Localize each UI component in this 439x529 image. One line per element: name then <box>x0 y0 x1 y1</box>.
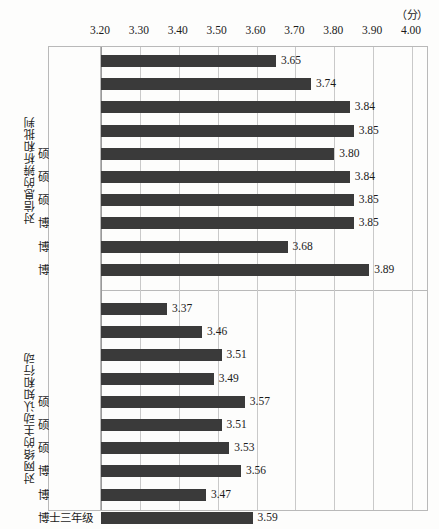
bar-row: 硕士三年级3.85 <box>49 194 427 206</box>
bar-value-label: 3.89 <box>369 263 394 276</box>
bar-row: 硕士三年级3.53 <box>49 442 427 454</box>
bar-value-label: 3.47 <box>206 488 231 501</box>
bar-value-label: 3.37 <box>167 302 192 315</box>
bar-value-label: 3.59 <box>253 511 278 524</box>
bar-value-label: 3.65 <box>276 54 301 67</box>
bar-value-label: 3.68 <box>288 240 313 253</box>
bar-value-label: 3.46 <box>202 325 227 338</box>
bar <box>101 217 354 229</box>
bar-value-label: 3.51 <box>222 418 247 431</box>
bar-row: 大三3.51 <box>49 349 427 361</box>
bar-row: 大四3.49 <box>49 373 427 385</box>
axis-unit-label: （分） <box>392 6 432 22</box>
bar <box>101 349 222 361</box>
bar <box>101 148 334 160</box>
bar-row: 博士三年级3.89 <box>49 264 427 276</box>
bar-row: 硕士一年级3.57 <box>49 396 427 408</box>
bar-value-label: 3.84 <box>350 170 375 183</box>
x-tick-label: 4.00 <box>389 24 433 36</box>
gridline <box>101 47 102 510</box>
bar <box>101 326 202 338</box>
bar <box>101 419 222 431</box>
bar-row: 博士二年级3.47 <box>49 489 427 501</box>
bar <box>101 303 167 315</box>
bar <box>101 465 241 477</box>
bar-value-label: 3.80 <box>334 147 359 160</box>
bar-value-label: 3.74 <box>311 77 336 90</box>
gridline <box>257 47 258 510</box>
bar-row: 硕士二年级3.84 <box>49 171 427 183</box>
bar-row: 博士一年级3.56 <box>49 465 427 477</box>
x-tick-label: 3.50 <box>195 24 239 36</box>
bar <box>101 171 350 183</box>
gridline <box>373 47 374 510</box>
bar <box>101 101 350 113</box>
gridline <box>295 47 296 510</box>
x-tick-label: 3.90 <box>350 24 394 36</box>
bar-row: 博士一年级3.85 <box>49 217 427 229</box>
bar <box>101 78 311 90</box>
bar-value-label: 3.57 <box>245 395 270 408</box>
bar <box>101 55 276 67</box>
bar-value-label: 3.85 <box>354 124 379 137</box>
bar-value-label: 3.51 <box>222 348 247 361</box>
bar-value-label: 3.85 <box>354 193 379 206</box>
bar-row: 硕士二年级3.51 <box>49 419 427 431</box>
x-tick-label: 3.80 <box>311 24 355 36</box>
bar <box>101 373 214 385</box>
bar-value-label: 3.49 <box>214 372 239 385</box>
bar-value-label: 3.84 <box>350 100 375 113</box>
bar-value-label: 3.56 <box>241 464 266 477</box>
bar-row: 大四3.85 <box>49 125 427 137</box>
bar <box>101 125 354 137</box>
bar <box>101 489 206 501</box>
bar-row: 大二3.46 <box>49 326 427 338</box>
gridline <box>179 47 180 510</box>
x-axis-tick-labels: 3.203.303.403.503.603.703.803.904.00 <box>0 24 439 40</box>
group-separator <box>49 290 427 291</box>
bar-value-label: 3.53 <box>229 441 254 454</box>
bar-row: 大一3.65 <box>49 55 427 67</box>
x-tick-label: 3.30 <box>117 24 161 36</box>
x-tick-label: 3.60 <box>234 24 278 36</box>
bar <box>101 512 253 524</box>
bar-chart-figure: （分） 3.203.303.403.503.603.703.803.904.00… <box>0 0 439 529</box>
plot-area: 大一3.65大二3.74大三3.84大四3.85硕士一年级3.80硕士二年级3.… <box>48 46 428 511</box>
bar <box>101 241 288 253</box>
category-label: 博士三年级 <box>17 512 97 524</box>
bar <box>101 264 369 276</box>
bar <box>101 442 229 454</box>
bar-row: 大一3.37 <box>49 303 427 315</box>
bar-row: 硕士一年级3.80 <box>49 148 427 160</box>
x-tick-label: 3.70 <box>272 24 316 36</box>
bar <box>101 194 354 206</box>
category-label-gutter <box>49 47 101 510</box>
bar <box>101 396 245 408</box>
bar-row: 博士三年级3.59 <box>49 512 427 524</box>
x-tick-label: 3.20 <box>78 24 122 36</box>
x-tick-label: 3.40 <box>156 24 200 36</box>
gridline <box>334 47 335 510</box>
gridline <box>218 47 219 510</box>
bar-row: 博士二年级3.68 <box>49 241 427 253</box>
gridline <box>140 47 141 510</box>
bar-row: 大二3.74 <box>49 78 427 90</box>
bar-value-label: 3.85 <box>354 216 379 229</box>
bar-row: 大三3.84 <box>49 101 427 113</box>
gridline <box>412 47 413 510</box>
